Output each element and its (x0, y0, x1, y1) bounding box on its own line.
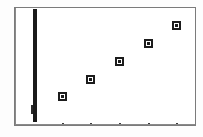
figure-scatter-plot (0, 0, 203, 137)
data-point-marker (144, 39, 153, 48)
x-axis-tick (62, 123, 64, 125)
data-point-core (89, 78, 92, 81)
x-axis-tick (176, 123, 178, 125)
x-axis-tick (90, 123, 92, 125)
data-point-marker (172, 21, 181, 30)
vertical-axis-bar (33, 9, 37, 122)
plot-frame (14, 7, 196, 126)
axis-bar-notch (31, 105, 33, 114)
x-axis-tick (148, 123, 150, 125)
data-point-core (175, 24, 178, 27)
data-point-marker (86, 75, 95, 84)
data-point-core (61, 95, 64, 98)
data-point-core (147, 42, 150, 45)
data-point-marker (58, 92, 67, 101)
data-point-core (118, 60, 121, 63)
data-point-marker (115, 57, 124, 66)
x-axis-tick (119, 123, 121, 125)
